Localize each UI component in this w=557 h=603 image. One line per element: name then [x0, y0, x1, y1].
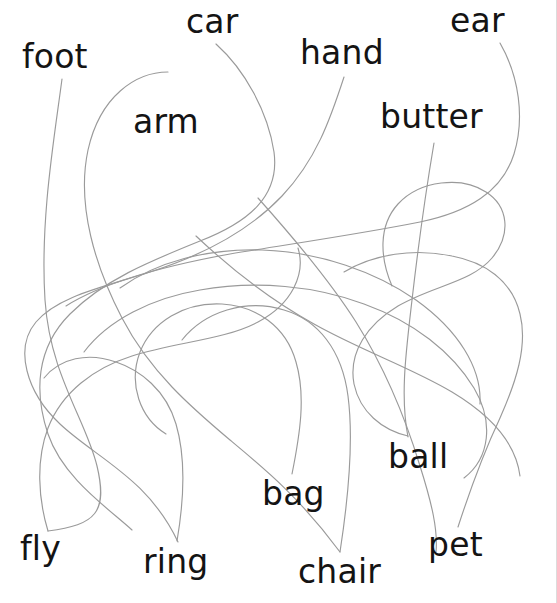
curve-foot [44, 79, 101, 531]
word-label-pet[interactable]: pet [428, 528, 483, 561]
word-label-ring[interactable]: ring [143, 545, 208, 578]
word-label-foot[interactable]: foot [22, 40, 88, 73]
curve-bag [135, 304, 301, 474]
word-label-fly[interactable]: fly [20, 532, 61, 565]
word-label-ear[interactable]: ear [450, 4, 505, 37]
curve-chair [182, 306, 350, 552]
word-label-butter[interactable]: butter [380, 100, 483, 133]
word-label-hand[interactable]: hand [300, 36, 384, 69]
curve-ear [66, 43, 519, 306]
word-label-car[interactable]: car [186, 5, 239, 38]
curve-loop-b [196, 236, 520, 476]
worksheet-canvas: footcarhandeararmbutterballbagflyringcha… [0, 0, 557, 603]
curve-butter [404, 143, 434, 437]
curve-pet [344, 253, 523, 527]
word-label-bag[interactable]: bag [262, 477, 325, 510]
word-label-arm[interactable]: arm [133, 105, 199, 138]
word-label-ball[interactable]: ball [388, 440, 448, 473]
word-label-chair[interactable]: chair [298, 555, 381, 588]
